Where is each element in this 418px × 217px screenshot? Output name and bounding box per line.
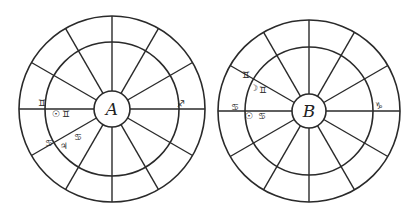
sun-icon: ☉ bbox=[52, 109, 60, 119]
gemini-icon: ♊ bbox=[242, 70, 250, 80]
house-cusp-line bbox=[318, 32, 355, 96]
house-cusp-line bbox=[66, 125, 104, 190]
house-cusp-line bbox=[66, 28, 104, 93]
house-cusp-line bbox=[324, 66, 388, 103]
house-cusp-line bbox=[230, 66, 294, 103]
gemini-icon: ♊ bbox=[62, 109, 70, 119]
house-cusp-line bbox=[128, 63, 193, 101]
jupiter-icon: ♃ bbox=[60, 141, 68, 151]
sun-icon: ☉ bbox=[245, 111, 253, 121]
house-cusp-line bbox=[324, 120, 388, 157]
cancer-icon: ♋ bbox=[45, 138, 53, 148]
house-cusp-line bbox=[318, 126, 355, 190]
chart-label: B bbox=[302, 101, 316, 121]
house-cusp-line bbox=[121, 125, 159, 190]
moon-icon: ☽ bbox=[250, 83, 258, 93]
gemini-icon: ♊ bbox=[38, 98, 46, 108]
sagittarius-icon: ♐ bbox=[177, 99, 185, 109]
chart-b: B♊☽♊♋☉♋♑ bbox=[218, 20, 400, 202]
house-cusp-line bbox=[230, 120, 294, 157]
house-cusp-line bbox=[264, 126, 301, 190]
house-cusp-line bbox=[121, 28, 159, 93]
chart-a: A♊☉♊♋♃♋♐ bbox=[19, 16, 205, 202]
cancer-icon: ♋ bbox=[258, 111, 266, 121]
chart-label: A bbox=[104, 99, 118, 119]
house-cusp-line bbox=[128, 118, 193, 156]
cancer-icon: ♋ bbox=[74, 132, 82, 142]
gemini-icon: ♊ bbox=[259, 85, 267, 95]
house-cusp-line bbox=[264, 32, 301, 96]
house-cusp-line bbox=[31, 63, 96, 101]
cancer-icon: ♋ bbox=[231, 102, 239, 112]
capricorn-icon: ♑ bbox=[375, 101, 383, 111]
astrology-charts-diagram: A♊☉♊♋♃♋♐B♊☽♊♋☉♋♑ bbox=[0, 0, 418, 217]
